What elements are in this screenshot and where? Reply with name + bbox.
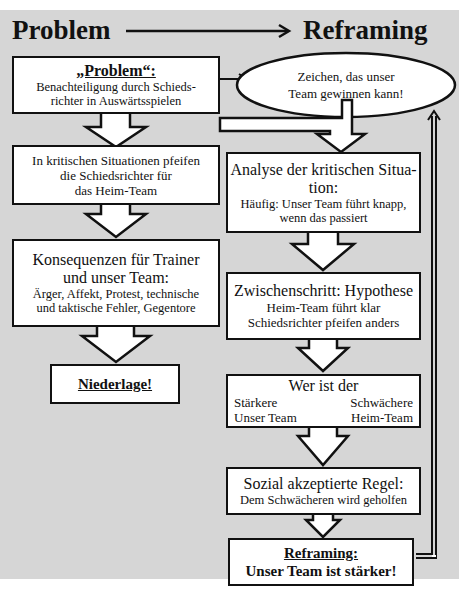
problem-line2: richter in Auswärtsspielen — [51, 94, 182, 108]
block-arrow-down-icon — [298, 338, 348, 371]
problem-line1: Benachteiligung durch Schieds- — [36, 80, 196, 94]
who-labels-row: Stärkere Schwächere — [228, 395, 419, 410]
weaker-value: Heim-Team — [351, 410, 413, 425]
analysis-line2: wenn das passiert — [279, 211, 367, 225]
critical-line2: die Schiedsrichter für — [60, 168, 172, 183]
ellipse-line1: Zeichen, das unser — [250, 68, 442, 85]
block-arrow-down-icon — [306, 513, 340, 537]
block-arrow-down-icon — [298, 426, 348, 465]
reframing-box: Reframing: Unser Team ist stärker! — [228, 538, 414, 586]
social-rule-box: Sozial akzeptierte Regel: Dem Schwächere… — [226, 467, 421, 515]
who-values-row: Unser Team Heim-Team — [228, 410, 419, 425]
problem-box: „Problem“: Benachteiligung durch Schieds… — [12, 56, 220, 114]
consequences-title1: Konsequenzen für Trainer — [32, 251, 199, 269]
stronger-value: Unser Team — [234, 410, 297, 425]
analysis-box: Analyse der kritischen Situa- tion: Häuf… — [226, 152, 421, 233]
header-arrow-icon — [126, 25, 289, 37]
hypothesis-line2: Schiedsrichter pfeifen anders — [248, 315, 400, 330]
block-arrow-down-icon — [86, 113, 146, 147]
reframing-title: Reframing: — [284, 544, 358, 562]
hypothesis-line1: Heim-Team führt klar — [267, 300, 381, 315]
block-arrow-down-icon — [82, 325, 150, 362]
consequences-line1: Ärger, Affekt, Protest, technische — [33, 287, 199, 301]
block-arrow-down-icon — [292, 231, 354, 270]
reframing-line1: Unser Team ist stärker! — [246, 562, 397, 580]
problem-title: „Problem“: — [76, 62, 156, 80]
defeat-box: Niederlage! — [50, 364, 180, 404]
who-stronger-box: Wer ist der Stärkere Schwächere Unser Te… — [226, 374, 421, 428]
hypothesis-box: Zwischenschritt: Hypothese Heim-Team füh… — [226, 272, 421, 340]
critical-line1: In kritischen Situationen pfeifen — [32, 153, 200, 168]
consequences-line2: und taktische Fehler, Gegentore — [36, 301, 195, 315]
ellipse-text: Zeichen, das unser Team gewinnen kann! — [250, 68, 442, 102]
critical-situations-box: In kritischen Situationen pfeifen die Sc… — [12, 145, 220, 205]
ellipse-line2: Team gewinnen kann! — [250, 85, 442, 102]
rule-title: Sozial akzeptierte Regel: — [244, 475, 404, 493]
who-title: Wer ist der — [289, 377, 359, 395]
analysis-line1: Häufig: Unser Team führt knapp, — [241, 197, 407, 211]
critical-line3: das Heim-Team — [75, 183, 157, 198]
stronger-label: Stärkere — [234, 395, 277, 410]
defeat-label: Niederlage! — [78, 375, 152, 393]
consequences-box: Konsequenzen für Trainer und unser Team:… — [12, 239, 220, 327]
hypothesis-title: Zwischenschritt: Hypothese — [234, 282, 413, 300]
rule-line1: Dem Schwächeren wird geholfen — [240, 493, 407, 507]
analysis-title1: Analyse der kritischen Situa- — [230, 161, 416, 179]
consequences-title2: und unser Team: — [63, 269, 169, 287]
weaker-label: Schwächere — [350, 395, 413, 410]
block-arrow-down-icon — [86, 203, 146, 237]
analysis-title2: tion: — [309, 179, 338, 197]
